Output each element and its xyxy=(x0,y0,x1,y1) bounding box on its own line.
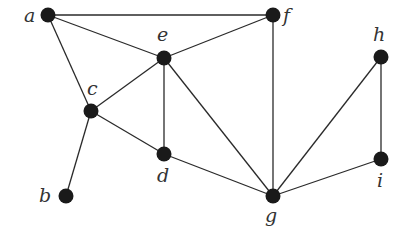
node-e xyxy=(157,51,172,66)
node-c xyxy=(84,104,99,119)
node-label-f: f xyxy=(281,4,293,26)
node-b xyxy=(59,189,74,204)
node-label-a: a xyxy=(24,4,35,26)
edge-g-h xyxy=(273,57,381,196)
edge-a-c xyxy=(48,15,91,111)
edge-a-e xyxy=(48,15,164,58)
edge-e-f xyxy=(164,15,273,58)
node-label-h: h xyxy=(373,23,385,45)
node-f xyxy=(266,8,281,23)
node-label-c: c xyxy=(87,77,98,99)
node-a xyxy=(41,8,56,23)
node-g xyxy=(266,189,281,204)
node-label-i: i xyxy=(377,169,383,191)
edges xyxy=(48,15,381,196)
node-h xyxy=(374,50,389,65)
edge-c-d xyxy=(91,111,164,154)
node-label-d: d xyxy=(157,164,169,186)
labels: afecdbghi xyxy=(24,4,385,226)
node-d xyxy=(157,147,172,162)
edge-c-b xyxy=(66,111,91,196)
node-i xyxy=(374,152,389,167)
graph-diagram: afecdbghi xyxy=(0,0,410,239)
node-label-b: b xyxy=(39,184,51,206)
edge-c-e xyxy=(91,58,164,111)
node-label-g: g xyxy=(265,204,277,226)
edge-g-i xyxy=(273,159,381,196)
node-label-e: e xyxy=(157,23,168,45)
